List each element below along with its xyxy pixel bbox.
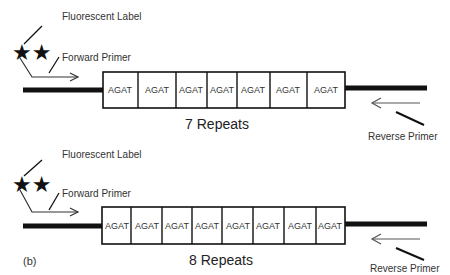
panel-label: (b) xyxy=(23,255,36,267)
reverse-pointer-line xyxy=(396,112,424,125)
forward-primer-text: Forward Primer xyxy=(62,52,132,63)
repeat-cell: AGAT xyxy=(108,85,132,95)
repeat-region-7: AGAT AGAT AGAT AGAT AGAT AGAT AGAT xyxy=(103,72,345,108)
reverse-primer-text: Reverse Primer xyxy=(370,263,440,274)
repeat-cell: AGAT xyxy=(226,221,250,231)
repeats-count-label: 8 Repeats xyxy=(189,252,253,268)
repeat-cell: AGAT xyxy=(241,85,265,95)
forward-primer-text: Forward Primer xyxy=(62,188,132,199)
fluorescent-label-text: Fluorescent Label xyxy=(62,149,142,160)
fluorescent-star-icon: ★★ xyxy=(12,172,51,197)
repeat-cell: AGAT xyxy=(145,85,169,95)
fluorescent-label-text: Fluorescent Label xyxy=(62,11,142,22)
repeat-cell: AGAT xyxy=(314,85,338,95)
repeat-region-8: AGAT AGAT AGAT AGAT AGAT AGAT AGAT AGAT xyxy=(102,207,345,244)
repeats-count-label: 7 Repeats xyxy=(185,116,249,132)
reverse-primer-text: Reverse Primer xyxy=(368,131,438,142)
repeat-cell: AGAT xyxy=(105,221,129,231)
str-diagram: Fluorescent Label ★★ Forward Primer AGAT… xyxy=(0,0,450,275)
reverse-pointer-line xyxy=(396,248,424,260)
repeat-cell: AGAT xyxy=(276,85,300,95)
repeat-cell: AGAT xyxy=(288,221,312,231)
repeat-cell: AGAT xyxy=(165,221,189,231)
repeat-cell: AGAT xyxy=(318,221,342,231)
repeat-cell: AGAT xyxy=(135,221,159,231)
panel-a: Fluorescent Label ★★ Forward Primer AGAT… xyxy=(12,11,438,142)
panel-b: Fluorescent Label ★★ Forward Primer AGAT… xyxy=(12,149,440,274)
repeat-cell: AGAT xyxy=(256,221,280,231)
repeat-cell: AGAT xyxy=(195,221,219,231)
repeat-cell: AGAT xyxy=(210,85,234,95)
repeat-cell: AGAT xyxy=(179,85,203,95)
fluorescent-star-icon: ★★ xyxy=(12,40,51,65)
